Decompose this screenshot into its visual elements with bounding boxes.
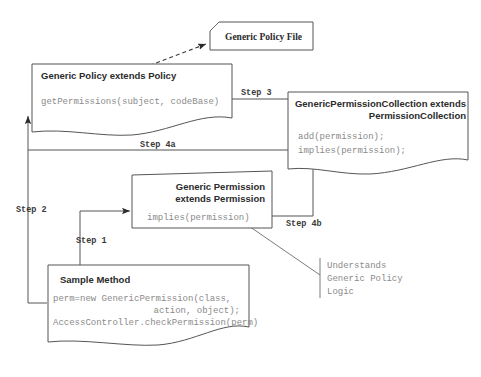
annotation-line-2: Generic Policy [327,274,403,284]
generic-permission-method-0: implies(permission) [147,213,250,223]
generic-policy-title: Generic Policy extends Policy [41,70,177,81]
node-sample-method[interactable]: Sample Method perm=new GenericPermission… [48,265,258,345]
diagram-canvas: Generic Policy File Generic Policy exten… [0,0,481,377]
node-generic-permission[interactable]: Generic Permission extends Permission im… [132,171,272,228]
annotation-leader-line [243,222,320,275]
node-generic-policy-file[interactable]: Generic Policy File [210,22,313,50]
generic-policy-method-0: getPermissions(subject, codeBase) [41,97,219,107]
annotation-line-1: Understands [327,261,386,271]
generic-policy-file-label: Generic Policy File [225,32,302,42]
node-permission-collection[interactable]: GenericPermissionCollection extends Perm… [288,92,468,174]
edge-label-step3: Step 3 [241,88,272,98]
edge-label-step4b: Step 4b [286,219,322,229]
node-generic-policy[interactable]: Generic Policy extends Policy getPermiss… [32,64,232,135]
permission-collection-title-line1: GenericPermissionCollection extends [295,98,466,109]
edge-label-step1: Step 1 [76,236,107,246]
sample-method-code-1: action, object); [154,306,240,316]
permission-collection-method-1: implies(permission); [298,146,406,156]
generic-permission-title-line2: extends Permission [175,193,265,204]
sample-method-title: Sample Method [60,274,130,285]
policy-architecture-diagram: Generic Policy File Generic Policy exten… [0,0,481,377]
annotation-line-3: Logic [327,287,354,297]
annotation-understands: Understands Generic Policy Logic [320,258,403,298]
edge-label-step4a: Step 4a [140,140,176,150]
sample-method-code-2: AccessController.checkPermission(perm) [53,318,258,328]
edge-label-step2: Step 2 [16,205,47,215]
sample-method-code-0: perm=new GenericPermission(class, [53,294,231,304]
generic-permission-title-line1: Generic Permission [176,181,265,192]
permission-collection-title-line2: PermissionCollection [369,110,466,121]
permission-collection-method-0: add(permission); [298,132,384,142]
